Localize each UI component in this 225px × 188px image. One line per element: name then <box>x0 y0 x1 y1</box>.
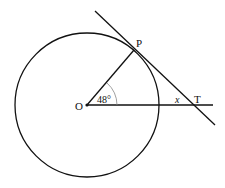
label-t: T <box>194 93 201 105</box>
center-dot <box>85 103 88 106</box>
label-o: O <box>75 100 83 112</box>
circle-tangent-diagram: O P T 48° x <box>0 0 225 188</box>
label-x: x <box>174 94 180 105</box>
label-48: 48° <box>97 94 111 105</box>
tangent-line <box>95 11 215 125</box>
label-p: P <box>136 37 142 49</box>
